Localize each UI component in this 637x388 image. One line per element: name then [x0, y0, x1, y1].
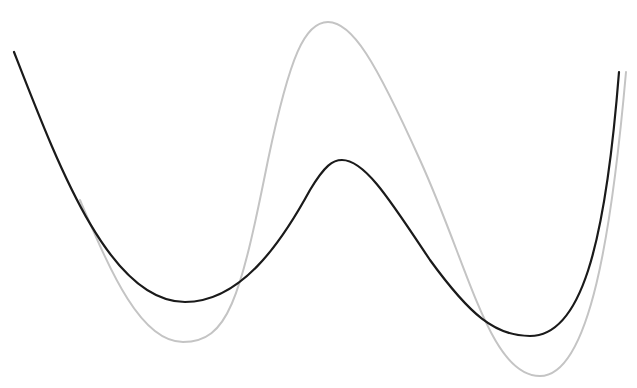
- curves-diagram: [0, 0, 637, 388]
- diagram-background: [0, 0, 637, 388]
